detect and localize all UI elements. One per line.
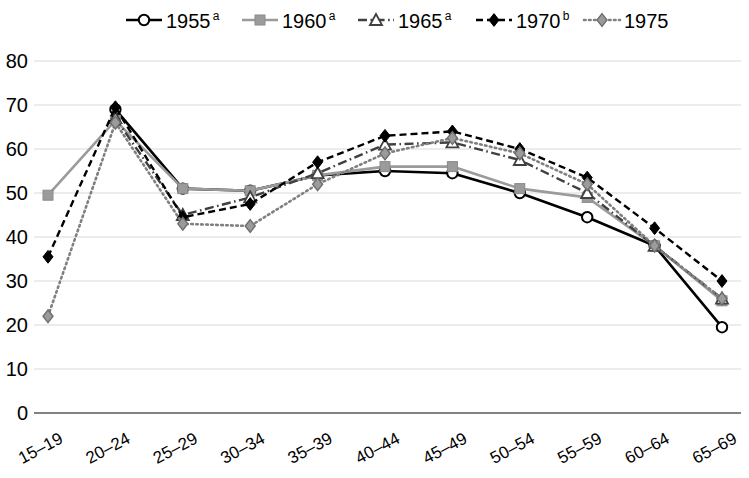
y-tick-label: 80 — [6, 50, 28, 72]
chart-canvas: 01020304050607080 15–1920–2425–2930–3435… — [0, 0, 749, 478]
data-point-1960-25–29 — [178, 184, 188, 194]
series-1965 — [109, 112, 728, 303]
data-point-1970-40–44 — [380, 129, 390, 142]
legend-item-1960[interactable]: 1960a — [242, 9, 336, 32]
legend-superscript-1960: a — [329, 9, 336, 23]
line-chart: 01020304050607080 15–1920–2425–2930–3435… — [0, 0, 749, 478]
series-line-1955 — [115, 109, 722, 327]
data-point-1955-65–69 — [717, 322, 727, 332]
x-axis-tick-labels: 15–1920–2425–2930–3435–3940–4445–4950–54… — [15, 429, 740, 468]
legend-superscript-1955: a — [213, 9, 220, 23]
y-tick-label: 40 — [6, 226, 28, 248]
data-point-1975-30–34 — [245, 220, 255, 233]
legend-label-1955: 1955 — [166, 10, 211, 32]
y-tick-label: 20 — [6, 314, 28, 336]
data-point-1955-55–59 — [582, 212, 592, 222]
data-point-1960-50–54 — [515, 184, 525, 194]
data-point-1970-15–19 — [43, 250, 53, 263]
y-tick-label: 70 — [6, 94, 28, 116]
chart-legend: 1955a1960a1965a1970b1975 — [126, 9, 669, 32]
y-tick-label: 0 — [17, 402, 28, 424]
series-1955 — [110, 104, 727, 332]
legend-item-1970[interactable]: 1970b — [476, 9, 570, 32]
legend-marker-1955 — [139, 15, 149, 25]
legend-item-1955[interactable]: 1955a — [126, 9, 220, 32]
x-tick-label: 40–44 — [352, 429, 403, 468]
gridlines — [34, 61, 741, 369]
data-point-1970-60–64 — [650, 222, 660, 235]
data-point-1970-35–39 — [313, 156, 323, 169]
legend-label-1960: 1960 — [282, 10, 327, 32]
legend-marker-1970 — [489, 14, 499, 27]
y-axis-tick-labels: 01020304050607080 — [6, 50, 28, 424]
y-tick-label: 30 — [6, 270, 28, 292]
legend-marker-1975 — [597, 14, 607, 27]
data-point-1960-45–49 — [447, 162, 457, 172]
x-tick-label: 35–39 — [285, 429, 336, 468]
data-point-1975-15–19 — [43, 310, 53, 323]
x-tick-label: 15–19 — [15, 429, 66, 468]
x-tick-label: 50–54 — [487, 429, 538, 468]
x-tick-label: 25–29 — [150, 429, 201, 468]
x-tick-label: 60–64 — [622, 429, 673, 468]
data-point-1960-15–19 — [43, 190, 53, 200]
legend-superscript-1965: a — [445, 9, 452, 23]
legend-item-1975[interactable]: 1975 — [584, 10, 669, 32]
series-1970 — [43, 101, 727, 288]
legend-label-1965: 1965 — [398, 10, 443, 32]
legend-marker-1960 — [255, 15, 265, 25]
data-point-1960-40–44 — [380, 162, 390, 172]
legend-label-1975: 1975 — [624, 10, 669, 32]
x-tick-label: 55–59 — [554, 429, 605, 468]
y-tick-label: 60 — [6, 138, 28, 160]
y-tick-label: 50 — [6, 182, 28, 204]
data-series-group — [43, 101, 728, 333]
x-tick-label: 30–34 — [217, 429, 268, 468]
y-tick-label: 10 — [6, 358, 28, 380]
x-tick-label: 45–49 — [420, 429, 471, 468]
x-tick-label: 20–24 — [83, 429, 134, 468]
x-tick-label: 65–69 — [689, 429, 740, 468]
legend-item-1965[interactable]: 1965a — [358, 9, 452, 32]
data-point-1970-65–69 — [717, 275, 727, 288]
series-1975 — [43, 116, 727, 322]
legend-superscript-1970: b — [563, 9, 570, 23]
legend-label-1970: 1970 — [516, 10, 561, 32]
